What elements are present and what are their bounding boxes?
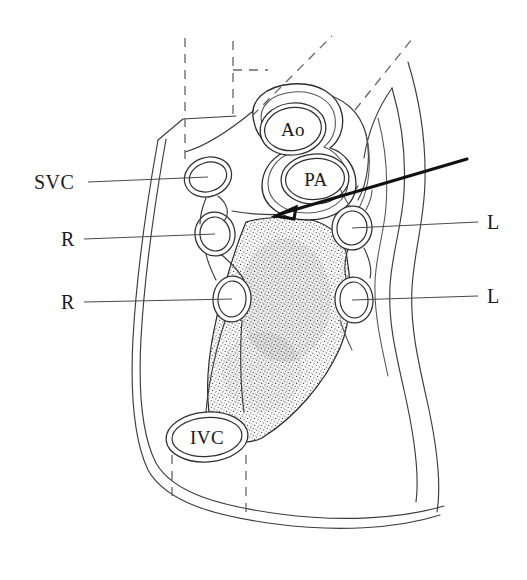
right-body-wall-outer bbox=[408, 62, 439, 512]
stippled-soft-tissue bbox=[208, 217, 350, 442]
leader-line-r-lower bbox=[84, 299, 232, 302]
label-r-upper: R bbox=[61, 228, 75, 250]
label-svc: SVC bbox=[34, 171, 74, 193]
right-body-wall-inner bbox=[390, 88, 418, 502]
label-l-lower: L bbox=[487, 285, 500, 307]
right-body-wall-fold bbox=[375, 118, 388, 376]
anatomical-diagram-figure: SVC R R L L Ao PA IVC bbox=[0, 0, 527, 580]
label-ao: Ao bbox=[281, 119, 305, 140]
label-pa: PA bbox=[304, 169, 328, 190]
label-r-lower: R bbox=[61, 291, 75, 313]
diagram-canvas: SVC R R L L Ao PA IVC bbox=[0, 0, 527, 580]
dashed-guide-diagonal-outer bbox=[355, 39, 412, 110]
left-shoulder-connector bbox=[158, 116, 236, 140]
label-ivc: IVC bbox=[190, 427, 224, 448]
label-l-upper: L bbox=[487, 211, 500, 233]
